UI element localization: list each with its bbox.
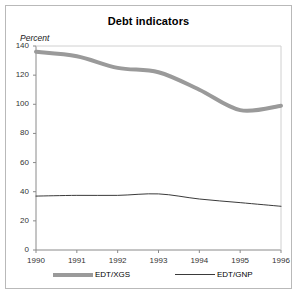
x-tick-label: 1993 (142, 256, 176, 265)
legend-swatch-edt-gnp (175, 274, 215, 275)
x-tick-label: 1995 (223, 256, 257, 265)
chart-legend: EDT/XGS EDT/GNP (0, 270, 297, 286)
y-tick-label: 60 (5, 158, 29, 167)
x-tick-label: 1994 (182, 256, 216, 265)
legend-item-edt-gnp: EDT/GNP (175, 270, 253, 279)
legend-label-edt-xgs: EDT/XGS (95, 270, 130, 279)
y-tick-label: 140 (5, 41, 29, 50)
y-tick-label: 120 (5, 70, 29, 79)
x-tick-label: 1990 (19, 256, 53, 265)
x-tick-label: 1991 (60, 256, 94, 265)
legend-label-edt-gnp: EDT/GNP (217, 270, 253, 279)
axes-group (36, 46, 281, 250)
y-tick-label: 80 (5, 128, 29, 137)
series-line-edt-xgs (36, 52, 281, 111)
legend-swatch-edt-xgs (53, 273, 93, 277)
series-line-edt-gnp (36, 194, 281, 207)
chart-container: Debt indicators Percent 0204060801001201… (0, 0, 297, 294)
y-tick-label: 0 (5, 245, 29, 254)
x-tick-label: 1992 (101, 256, 135, 265)
y-tick-label: 20 (5, 216, 29, 225)
x-tick-label: 1996 (264, 256, 297, 265)
plot-area (0, 0, 297, 294)
legend-item-edt-xgs: EDT/XGS (53, 270, 130, 279)
y-tick-label: 40 (5, 187, 29, 196)
y-tick-label: 100 (5, 99, 29, 108)
